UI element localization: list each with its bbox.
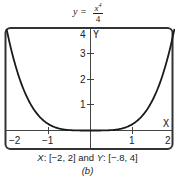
x-tick-label-1: 1 bbox=[129, 135, 135, 146]
caption-x-range: : [−2, 2] and bbox=[44, 152, 97, 163]
caption: X: [−2, 2] and Y: [−.8, 4] (b) bbox=[0, 151, 175, 177]
y-tick-label-4: 4 bbox=[80, 29, 86, 40]
y-tick-label-3: 3 bbox=[80, 48, 86, 59]
window-range: X: [−2, 2] and Y: [−.8, 4] bbox=[0, 151, 175, 164]
y-axis-name: Y bbox=[93, 29, 99, 40]
subfigure-label: (b) bbox=[0, 164, 175, 177]
x-tick-label-neg1: −1 bbox=[42, 135, 54, 146]
y-tick-label-2: 2 bbox=[80, 74, 86, 85]
x-tick-label-neg2: −2 bbox=[9, 135, 21, 146]
y-tick-label-1: 1 bbox=[80, 99, 86, 110]
x-axis-name: X bbox=[163, 118, 169, 129]
caption-y-range: : [−.8, 4] bbox=[103, 152, 138, 163]
x-tick-label-2: 2 bbox=[165, 135, 171, 146]
